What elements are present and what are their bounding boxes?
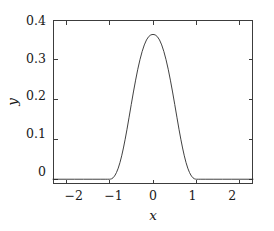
xtick-label-1: −1 [104, 190, 122, 203]
data-series-bump [53, 34, 253, 179]
xtick-label-3: 1 [189, 190, 197, 203]
ytick-label-2: 0.2 [18, 90, 46, 103]
xtick-label-4: 2 [228, 190, 236, 203]
xtick-label-2: 0 [149, 190, 157, 203]
x-axis-label: x [149, 209, 157, 223]
ytick-label-1: 0.3 [18, 52, 46, 65]
xtick-label-0: −2 [65, 190, 83, 203]
ytick-label-0: 0.4 [18, 15, 46, 28]
tick-marks [53, 20, 253, 184]
chart-figure: 0.4 0.3 0.2 0.1 0 −2 −1 0 1 2 y x [0, 0, 274, 231]
ytick-label-4: 0 [18, 166, 46, 179]
plot-area [53, 20, 253, 184]
y-axis-label: y [6, 98, 20, 106]
ytick-label-3: 0.1 [18, 128, 46, 141]
